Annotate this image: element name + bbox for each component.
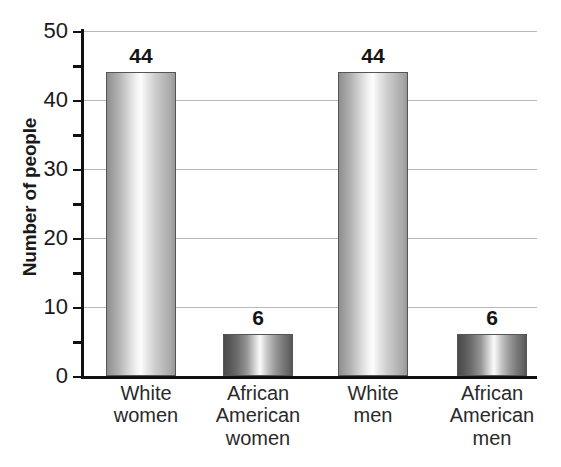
y-tick-major-30 bbox=[73, 169, 84, 171]
x-axis-label-line: African bbox=[392, 382, 561, 404]
y-tick-major-20 bbox=[73, 238, 84, 240]
y-tick-label-50: 50 bbox=[44, 20, 68, 42]
y-tick-label-40: 40 bbox=[44, 89, 68, 111]
bar-african-american-women[interactable]: 6 bbox=[223, 334, 293, 376]
x-axis-label-line: men bbox=[392, 427, 561, 449]
plot-area: 50 40 30 20 10 0 44 6 44 6 bbox=[84, 31, 537, 376]
bar-white-men[interactable]: 44 bbox=[338, 72, 408, 376]
y-tick-major-40 bbox=[73, 100, 84, 102]
bar-value-african-american-men: 6 bbox=[458, 307, 526, 328]
bar-value-african-american-women: 6 bbox=[224, 307, 292, 328]
bar-value-white-women: 44 bbox=[107, 45, 175, 66]
x-axis-label-line: American bbox=[392, 404, 561, 426]
y-tick-major-10 bbox=[73, 307, 84, 309]
gridline-50 bbox=[84, 31, 537, 32]
y-tick-minor-5 bbox=[73, 341, 84, 344]
x-axis-line bbox=[81, 376, 537, 379]
bar-white-women[interactable]: 44 bbox=[106, 72, 176, 376]
y-tick-minor-35 bbox=[73, 134, 84, 137]
bar-african-american-men[interactable]: 6 bbox=[457, 334, 527, 376]
y-tick-label-30: 30 bbox=[44, 158, 68, 180]
y-tick-label-20: 20 bbox=[44, 227, 68, 249]
x-axis-label-african-american-men: African American men bbox=[392, 382, 561, 449]
y-tick-major-50 bbox=[73, 31, 84, 33]
y-tick-label-10: 10 bbox=[44, 296, 68, 318]
bar-chart-figure: Number of people 50 40 30 20 10 0 44 bbox=[0, 0, 561, 467]
y-tick-minor-15 bbox=[73, 272, 84, 275]
y-tick-major-0 bbox=[73, 376, 84, 378]
bar-value-white-men: 44 bbox=[339, 45, 407, 66]
y-axis-title: Number of people bbox=[19, 97, 41, 297]
y-tick-minor-25 bbox=[73, 203, 84, 206]
y-tick-minor-45 bbox=[73, 65, 84, 68]
x-axis-label-line: women bbox=[158, 427, 358, 449]
